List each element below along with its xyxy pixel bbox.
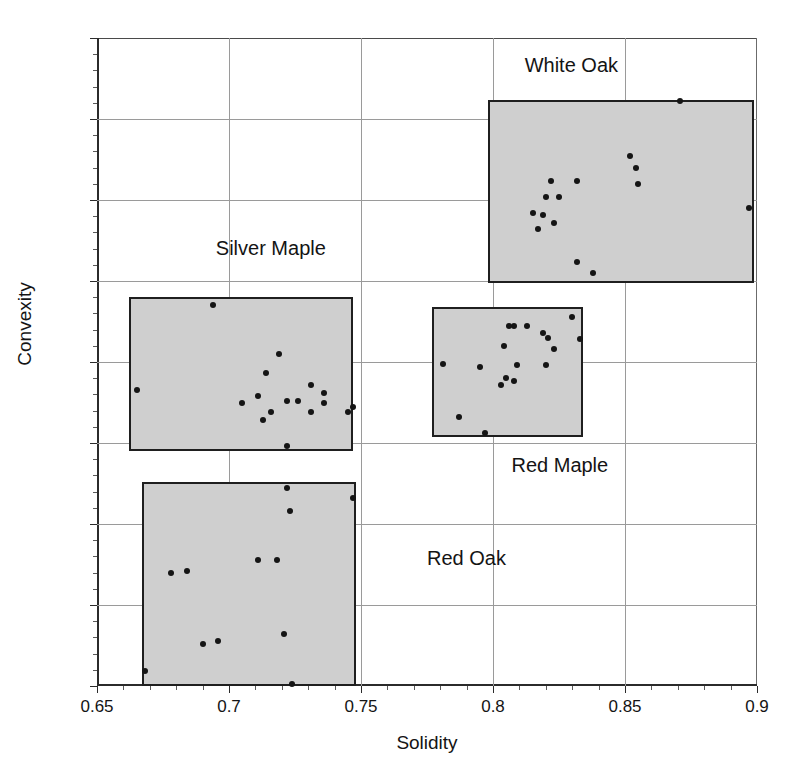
data-point	[535, 226, 541, 232]
y-minor-tick	[93, 621, 97, 622]
x-minor-tick	[335, 686, 336, 690]
data-point	[633, 165, 639, 171]
x-minor-tick	[467, 686, 468, 690]
data-point	[168, 570, 174, 576]
x-minor-tick	[651, 686, 652, 690]
y-minor-tick	[93, 103, 97, 104]
x-minor-tick	[731, 686, 732, 690]
y-minor-tick	[93, 394, 97, 395]
data-point	[477, 364, 483, 370]
y-axis-label: Convexity	[10, 0, 40, 648]
x-minor-tick	[519, 686, 520, 690]
x-tick-label: 0.9	[717, 697, 797, 717]
x-minor-tick	[282, 686, 283, 690]
x-tick	[625, 686, 626, 693]
cluster-box-red-oak	[142, 482, 356, 686]
x-minor-tick	[387, 686, 388, 690]
y-minor-tick	[93, 168, 97, 169]
y-minor-tick	[93, 297, 97, 298]
data-point	[239, 400, 245, 406]
y-minor-tick	[93, 70, 97, 71]
x-minor-tick	[678, 686, 679, 690]
y-minor-tick	[93, 411, 97, 412]
data-point	[350, 404, 356, 410]
y-minor-tick	[93, 589, 97, 590]
y-minor-tick	[93, 232, 97, 233]
y-tick	[90, 605, 97, 606]
x-minor-tick	[414, 686, 415, 690]
x-minor-tick	[599, 686, 600, 690]
data-point	[530, 210, 536, 216]
data-point	[501, 343, 507, 349]
y-minor-tick	[93, 475, 97, 476]
x-tick-label: 0.65	[57, 697, 137, 717]
y-minor-tick	[93, 573, 97, 574]
cluster-label-red-maple: Red Maple	[511, 454, 608, 477]
data-point	[548, 178, 554, 184]
y-minor-tick	[93, 330, 97, 331]
data-point	[321, 390, 327, 396]
data-point	[284, 398, 290, 404]
y-tick	[90, 524, 97, 525]
x-tick	[361, 686, 362, 693]
data-point	[514, 362, 520, 368]
y-minor-tick	[93, 313, 97, 314]
y-minor-tick	[93, 151, 97, 152]
y-minor-tick	[93, 459, 97, 460]
data-point	[543, 194, 549, 200]
data-point	[498, 382, 504, 388]
x-minor-tick	[123, 686, 124, 690]
data-point	[142, 668, 148, 674]
x-minor-tick	[203, 686, 204, 690]
data-point	[456, 414, 462, 420]
cluster-label-red-oak: Red Oak	[427, 547, 506, 570]
y-axis-label-text: Convexity	[14, 282, 36, 365]
data-point	[134, 387, 140, 393]
data-point	[345, 409, 351, 415]
y-minor-tick	[93, 540, 97, 541]
y-minor-tick	[93, 378, 97, 379]
data-point	[255, 557, 261, 563]
y-minor-tick	[93, 249, 97, 250]
y-tick	[90, 119, 97, 120]
y-tick	[90, 443, 97, 444]
x-tick	[757, 686, 758, 693]
cluster-box-silver-maple	[129, 297, 353, 451]
x-minor-tick	[150, 686, 151, 690]
y-minor-tick	[93, 87, 97, 88]
data-point	[440, 361, 446, 367]
scatter-plot-figure: Convexity 0.50.550.60.650.70.750.80.850.…	[0, 0, 802, 772]
cluster-label-white-oak: White Oak	[525, 54, 618, 77]
y-minor-tick	[93, 184, 97, 185]
x-minor-tick	[255, 686, 256, 690]
x-minor-tick	[572, 686, 573, 690]
y-tick	[90, 281, 97, 282]
x-tick-label: 0.8	[453, 697, 533, 717]
data-point	[184, 568, 190, 574]
y-minor-tick	[93, 265, 97, 266]
y-minor-tick	[93, 492, 97, 493]
x-minor-tick	[440, 686, 441, 690]
y-tick	[90, 200, 97, 201]
plot-area: 0.50.550.60.650.70.750.80.850.90.650.70.…	[97, 38, 757, 686]
x-minor-tick	[176, 686, 177, 690]
data-point	[321, 400, 327, 406]
gridline-vertical	[361, 38, 362, 686]
y-minor-tick	[93, 216, 97, 217]
y-tick	[90, 362, 97, 363]
x-minor-tick	[704, 686, 705, 690]
y-minor-tick	[93, 54, 97, 55]
data-point	[551, 220, 557, 226]
x-tick	[493, 686, 494, 693]
y-minor-tick	[93, 135, 97, 136]
y-minor-tick	[93, 427, 97, 428]
cluster-label-silver-maple: Silver Maple	[216, 237, 326, 260]
y-tick	[90, 38, 97, 39]
data-point	[308, 382, 314, 388]
x-tick-label: 0.7	[189, 697, 269, 717]
data-point	[255, 393, 261, 399]
y-minor-tick	[93, 637, 97, 638]
data-point	[200, 641, 206, 647]
data-point	[569, 314, 575, 320]
data-point	[540, 212, 546, 218]
